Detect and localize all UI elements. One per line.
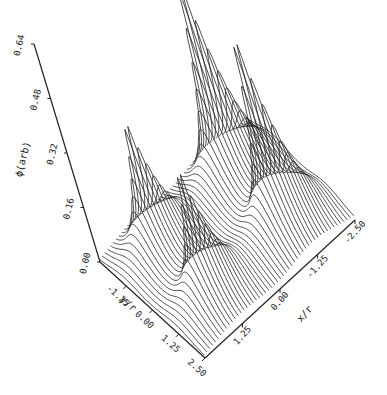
z-tick-label: 0.64 [12,34,27,57]
x-axis-label: x/r [294,303,314,324]
surface-lines [99,0,354,355]
z-tick-label: 0.16 [61,197,76,220]
z-tick-label: 0.32 [45,143,60,166]
y-tick-mark [176,334,179,337]
x-tick-label: 0.00 [269,290,291,313]
z-tick-label: 0.48 [28,88,43,111]
z-axis-label: ϕ(arb) [13,140,32,178]
y-tick-label: 0.00 [133,309,156,331]
y-tick-mark [123,286,126,289]
y-tick-label: 2.50 [186,357,209,379]
x-tick-label: 1.25 [231,324,253,347]
y-tick-mark [150,310,153,313]
y-tick-label: 1.25 [159,333,182,355]
surface-plot: 0.000.160.320.480.64 -1.250.001.252.50 1… [0,0,387,395]
y-tick-mark [202,358,205,361]
z-tick-label: 0.00 [78,252,93,275]
